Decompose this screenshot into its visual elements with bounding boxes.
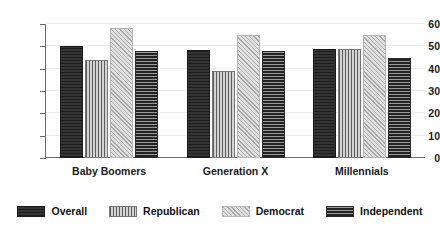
y-tick-mark	[40, 158, 45, 159]
y-tick-label: 20	[404, 108, 440, 119]
bar-group	[187, 24, 285, 158]
bar	[135, 51, 158, 158]
y-tick-label: 30	[404, 86, 440, 97]
legend-swatch	[17, 206, 45, 217]
y-tick-label: 0	[404, 153, 440, 164]
legend-label: Republican	[143, 206, 200, 217]
y-axis-spine	[45, 24, 46, 159]
y-tick-label: 10	[404, 130, 440, 141]
x-axis-category-label: Baby Boomers	[46, 166, 172, 177]
chart-legend: OverallRepublicanDemocratIndependent	[0, 206, 440, 217]
bar	[60, 46, 83, 158]
bar	[85, 60, 108, 158]
x-axis-category-label: Millennials	[299, 166, 425, 177]
bar	[262, 51, 285, 158]
bar	[187, 50, 210, 158]
y-tick-label: 60	[404, 19, 440, 30]
y-tick-mark	[40, 113, 45, 114]
bar	[338, 49, 361, 158]
x-axis-category-label: Generation X	[172, 166, 298, 177]
y-tick-mark	[40, 69, 45, 70]
bar	[313, 49, 336, 158]
y-tick-mark	[40, 91, 45, 92]
legend-item: Independent	[326, 206, 422, 217]
legend-swatch	[222, 206, 250, 217]
bar-group	[313, 24, 411, 158]
legend-item: Republican	[109, 206, 200, 217]
y-tick-label: 40	[404, 63, 440, 74]
legend-item: Overall	[17, 206, 87, 217]
bar-group	[60, 24, 158, 158]
y-tick-label: 50	[404, 41, 440, 52]
y-tick-mark	[40, 136, 45, 137]
bar	[212, 71, 235, 158]
legend-label: Overall	[51, 206, 87, 217]
plot-area	[46, 24, 425, 158]
y-tick-mark	[40, 46, 45, 47]
bar-chart: 0102030405060 Baby BoomersGeneration XMi…	[0, 0, 440, 239]
legend-item: Democrat	[222, 206, 304, 217]
legend-label: Democrat	[256, 206, 304, 217]
bar	[237, 35, 260, 158]
legend-swatch	[109, 206, 137, 217]
bar	[110, 28, 133, 158]
legend-label: Independent	[360, 206, 422, 217]
bar	[363, 35, 386, 158]
y-tick-mark	[40, 24, 45, 25]
legend-swatch	[326, 206, 354, 217]
